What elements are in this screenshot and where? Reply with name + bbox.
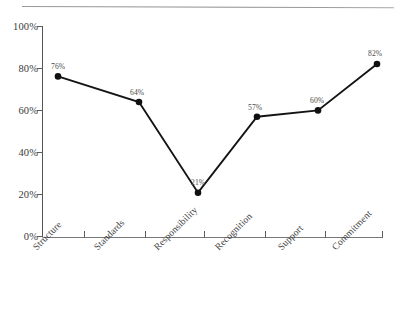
x-axis-labels: Structure Standards Responsibility Recog… [0,0,398,314]
x-tick-label-structure: Structure [31,219,64,252]
chart-figure: 100% 80% 60% 40% 20% 0% 76% 64% 21% 57% … [0,0,398,314]
x-tick-label-standards: Standards [92,218,126,252]
x-tick-label-commitment: Commitment [330,208,374,252]
x-tick-label-responsibility: Responsibility [152,205,199,252]
x-tick-label-support: Support [276,223,305,252]
x-tick-label-recognition: Recognition [213,211,254,252]
